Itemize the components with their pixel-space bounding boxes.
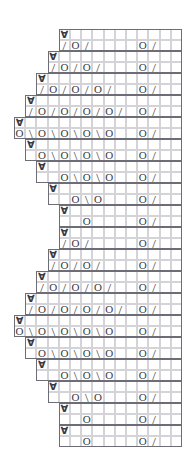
yarn-over-symbol: O (81, 62, 92, 73)
right-decrease-symbol: / (148, 392, 159, 403)
yarn-over-symbol: O (59, 304, 70, 315)
yarn-over-symbol: O (104, 172, 115, 183)
right-decrease-symbol: / (148, 304, 159, 315)
yarn-over-symbol: O (70, 40, 81, 51)
left-decrease-symbol: \ (81, 392, 92, 403)
right-decrease-symbol: / (25, 106, 36, 117)
yarn-over-symbol: O (137, 260, 148, 271)
stitch-marker-symbol: ∀ (59, 403, 70, 414)
right-decrease-symbol: / (148, 282, 159, 293)
yarn-over-symbol: O (137, 40, 148, 51)
right-decrease-symbol: / (148, 370, 159, 381)
yarn-over-symbol: O (59, 326, 70, 337)
yarn-over-symbol: O (137, 172, 148, 183)
right-decrease-symbol: / (59, 40, 70, 51)
right-decrease-symbol: / (148, 106, 159, 117)
yarn-over-symbol: O (81, 106, 92, 117)
yarn-over-symbol: O (137, 194, 148, 205)
right-decrease-symbol: / (81, 282, 92, 293)
yarn-over-symbol: O (59, 62, 70, 73)
right-decrease-symbol: / (148, 194, 159, 205)
yarn-over-symbol: O (36, 348, 47, 359)
yarn-over-symbol: O (137, 326, 148, 337)
left-decrease-symbol: \ (92, 150, 103, 161)
left-decrease-symbol: \ (92, 370, 103, 381)
right-decrease-symbol: / (48, 260, 59, 271)
yarn-over-symbol: O (48, 84, 59, 95)
stitch-marker-symbol: ∀ (36, 161, 47, 172)
right-decrease-symbol: / (148, 84, 159, 95)
left-decrease-symbol: \ (70, 150, 81, 161)
yarn-over-symbol: O (137, 436, 148, 447)
right-decrease-symbol: / (25, 304, 36, 315)
yarn-over-symbol: O (14, 326, 25, 337)
yarn-over-symbol: O (36, 326, 47, 337)
right-decrease-symbol: / (148, 216, 159, 227)
yarn-over-symbol: O (81, 150, 92, 161)
left-decrease-symbol: \ (70, 128, 81, 139)
left-decrease-symbol: \ (25, 326, 36, 337)
right-decrease-symbol: / (92, 260, 103, 271)
yarn-over-symbol: O (36, 150, 47, 161)
left-decrease-symbol: \ (70, 370, 81, 381)
yarn-over-symbol: O (14, 128, 25, 139)
yarn-over-symbol: O (36, 106, 47, 117)
right-decrease-symbol: / (148, 172, 159, 183)
right-decrease-symbol: / (36, 282, 47, 293)
yarn-over-symbol: O (137, 348, 148, 359)
yarn-over-symbol: O (70, 282, 81, 293)
yarn-over-symbol: O (59, 106, 70, 117)
yarn-over-symbol: O (81, 304, 92, 315)
yarn-over-symbol: O (70, 392, 81, 403)
yarn-over-symbol: O (70, 84, 81, 95)
yarn-over-symbol: O (137, 414, 148, 425)
knitting-chart: ∀/O/O/∀/O/O/O/∀/O/O/O/O/∀/O/O/O/O/O/∀O\O… (0, 0, 196, 476)
yarn-over-symbol: O (104, 106, 115, 117)
right-decrease-symbol: / (115, 106, 126, 117)
right-decrease-symbol: / (148, 260, 159, 271)
yarn-over-symbol: O (81, 172, 92, 183)
yarn-over-symbol: O (81, 436, 92, 447)
right-decrease-symbol: / (148, 238, 159, 249)
left-decrease-symbol: \ (92, 128, 103, 139)
right-decrease-symbol: / (148, 40, 159, 51)
right-decrease-symbol: / (148, 150, 159, 161)
right-decrease-symbol: / (70, 106, 81, 117)
yarn-over-symbol: O (137, 282, 148, 293)
yarn-over-symbol: O (104, 128, 115, 139)
right-decrease-symbol: / (104, 282, 115, 293)
yarn-over-symbol: O (137, 392, 148, 403)
yarn-over-symbol: O (81, 128, 92, 139)
right-decrease-symbol: / (48, 106, 59, 117)
yarn-over-symbol: O (81, 348, 92, 359)
yarn-over-symbol: O (59, 172, 70, 183)
left-decrease-symbol: \ (48, 326, 59, 337)
right-decrease-symbol: / (81, 84, 92, 95)
left-decrease-symbol: \ (92, 348, 103, 359)
left-decrease-symbol: \ (70, 348, 81, 359)
yarn-over-symbol: O (137, 216, 148, 227)
right-decrease-symbol: / (81, 238, 92, 249)
right-decrease-symbol: / (36, 84, 47, 95)
right-decrease-symbol: / (81, 40, 92, 51)
yarn-over-symbol: O (104, 370, 115, 381)
yarn-over-symbol: O (137, 106, 148, 117)
right-decrease-symbol: / (148, 414, 159, 425)
left-decrease-symbol: \ (81, 194, 92, 205)
yarn-over-symbol: O (137, 304, 148, 315)
right-decrease-symbol: / (70, 304, 81, 315)
right-decrease-symbol: / (59, 238, 70, 249)
right-decrease-symbol: / (48, 62, 59, 73)
yarn-over-symbol: O (92, 392, 103, 403)
yarn-over-symbol: O (36, 304, 47, 315)
yarn-over-symbol: O (92, 84, 103, 95)
yarn-over-symbol: O (92, 282, 103, 293)
right-decrease-symbol: / (70, 260, 81, 271)
right-decrease-symbol: / (148, 326, 159, 337)
left-decrease-symbol: \ (70, 172, 81, 183)
right-decrease-symbol: / (104, 84, 115, 95)
stitch-marker-symbol: ∀ (25, 337, 36, 348)
yarn-over-symbol: O (137, 370, 148, 381)
stitch-marker-symbol: ∀ (48, 183, 59, 194)
yarn-over-symbol: O (104, 304, 115, 315)
